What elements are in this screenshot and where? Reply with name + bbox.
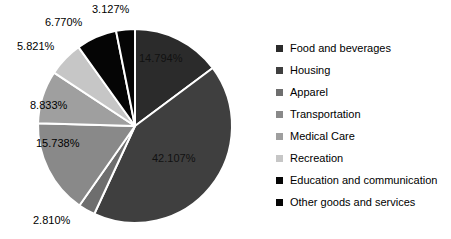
slice-label-medical: 8.833% xyxy=(30,99,67,111)
legend-swatch-icon xyxy=(276,177,283,184)
slice-label-education: 6.770% xyxy=(45,16,82,28)
pie-chart-svg xyxy=(0,0,262,239)
slice-label-recreation: 5.821% xyxy=(17,40,54,52)
slice-label-food: 14.794% xyxy=(139,52,182,64)
legend-item-transportation[interactable]: Transportation xyxy=(276,103,451,125)
legend-label: Recreation xyxy=(290,153,343,164)
legend-swatch-icon xyxy=(276,111,283,118)
slice-label-transportation: 15.738% xyxy=(36,137,79,149)
legend-item-medical-care[interactable]: Medical Care xyxy=(276,125,451,147)
legend-item-housing[interactable]: Housing xyxy=(276,59,451,81)
chart-plot-area: 14.794% 42.107% 2.810% 15.738% 8.833% 5.… xyxy=(0,0,262,239)
legend-swatch-icon xyxy=(276,89,283,96)
legend-swatch-icon xyxy=(276,67,283,74)
legend-label: Medical Care xyxy=(290,131,355,142)
legend-label: Transportation xyxy=(290,109,361,120)
legend-label: Apparel xyxy=(290,87,328,98)
legend-swatch-icon xyxy=(276,133,283,140)
slice-label-apparel: 2.810% xyxy=(33,214,70,226)
legend-swatch-icon xyxy=(276,199,283,206)
chart-legend: Food and beverages Housing Apparel Trans… xyxy=(276,37,451,213)
legend-label: Food and beverages xyxy=(290,43,391,54)
legend-label: Other goods and services xyxy=(290,197,415,208)
legend-swatch-icon xyxy=(276,45,283,52)
slice-label-housing: 42.107% xyxy=(152,152,195,164)
legend-item-other-goods-and-services[interactable]: Other goods and services xyxy=(276,191,451,213)
legend-item-apparel[interactable]: Apparel xyxy=(276,81,451,103)
legend-item-recreation[interactable]: Recreation xyxy=(276,147,451,169)
legend-label: Education and communication xyxy=(290,175,437,186)
legend-label: Housing xyxy=(290,65,330,76)
legend-item-food-and-beverages[interactable]: Food and beverages xyxy=(276,37,451,59)
slice-label-other: 3.127% xyxy=(92,3,129,15)
legend-swatch-icon xyxy=(276,155,283,162)
pie-slices-group xyxy=(38,29,232,223)
pie-chart-figure: 14.794% 42.107% 2.810% 15.738% 8.833% 5.… xyxy=(0,0,451,239)
legend-item-education-and-communication[interactable]: Education and communication xyxy=(276,169,451,191)
